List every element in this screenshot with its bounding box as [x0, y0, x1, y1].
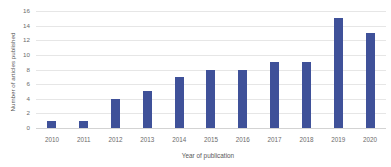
bar-slot: [322, 11, 354, 128]
bar-slot: [291, 11, 323, 128]
x-axis-tick-label: 2019: [322, 134, 354, 146]
y-axis-tick-label: 4: [27, 96, 30, 102]
bar-2013[interactable]: [143, 91, 152, 128]
bar-2010[interactable]: [47, 121, 56, 128]
bar-2011[interactable]: [79, 121, 88, 128]
bar-2017[interactable]: [270, 62, 279, 128]
bar-2012[interactable]: [111, 99, 120, 128]
bar-chart-figure: Number of articles published 16141210864…: [0, 0, 391, 167]
bar-2019[interactable]: [334, 18, 343, 128]
y-axis-tick-label: 0: [27, 125, 30, 131]
bar-slot: [354, 11, 386, 128]
x-axis-tick-label: 2020: [354, 134, 386, 146]
bar-2014[interactable]: [175, 77, 184, 128]
bar-slot: [68, 11, 100, 128]
y-axis-tick-label: 14: [23, 23, 30, 29]
y-axis-tick-label: 2: [27, 110, 30, 116]
x-axis-tick-label: 2012: [100, 134, 132, 146]
y-axis-tick-label: 10: [23, 52, 30, 58]
x-axis-tick-label: 2010: [36, 134, 68, 146]
bar-2020[interactable]: [366, 33, 375, 128]
x-axis-tick-label: 2013: [131, 134, 163, 146]
x-axis-tick-labels: 2010201120122013201420152016201720182019…: [36, 134, 386, 146]
x-axis-tick-label: 2014: [163, 134, 195, 146]
bar-slot: [36, 11, 68, 128]
bar-slot: [195, 11, 227, 128]
bar-2018[interactable]: [302, 62, 311, 128]
y-axis-tick-label: 12: [23, 37, 30, 43]
x-axis-tick-label: 2018: [291, 134, 323, 146]
x-axis-title: Year of publication: [30, 152, 386, 159]
bar-slot: [259, 11, 291, 128]
bar-2015[interactable]: [206, 70, 215, 129]
x-axis-tick-label: 2016: [227, 134, 259, 146]
plot-area: [36, 11, 386, 129]
y-axis-tick-label: 8: [27, 67, 30, 73]
x-axis-tick-label: 2017: [259, 134, 291, 146]
bar-slot: [131, 11, 163, 128]
y-axis-tick-label: 16: [23, 8, 30, 14]
y-axis-tick-label: 6: [27, 81, 30, 87]
x-axis-tick-label: 2011: [68, 134, 100, 146]
bar-slot: [163, 11, 195, 128]
x-axis-tick-label: 2015: [195, 134, 227, 146]
bar-slot: [227, 11, 259, 128]
bars-container: [36, 11, 386, 128]
y-axis-tick-labels: 1614121086420: [0, 11, 33, 129]
bar-2016[interactable]: [238, 70, 247, 129]
bar-slot: [100, 11, 132, 128]
